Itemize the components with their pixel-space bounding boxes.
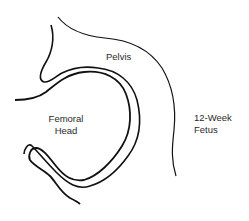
hip-joint-diagram: Pelvis Femoral Head 12-Week Fetus	[0, 0, 249, 221]
label-femoral-head-line1: Femoral	[46, 113, 86, 125]
label-femoral-head-line2: Head	[46, 125, 86, 137]
hip-outline-drawing	[0, 0, 249, 221]
label-pelvis: Pelvis	[106, 51, 131, 63]
label-femoral-head: Femoral Head	[46, 113, 86, 137]
pelvis-left-edge	[40, 25, 98, 82]
label-fetus-line2: Fetus	[194, 124, 232, 136]
label-fetus-line1: 12-Week	[194, 112, 232, 124]
label-12-week-fetus: 12-Week Fetus	[194, 112, 232, 136]
